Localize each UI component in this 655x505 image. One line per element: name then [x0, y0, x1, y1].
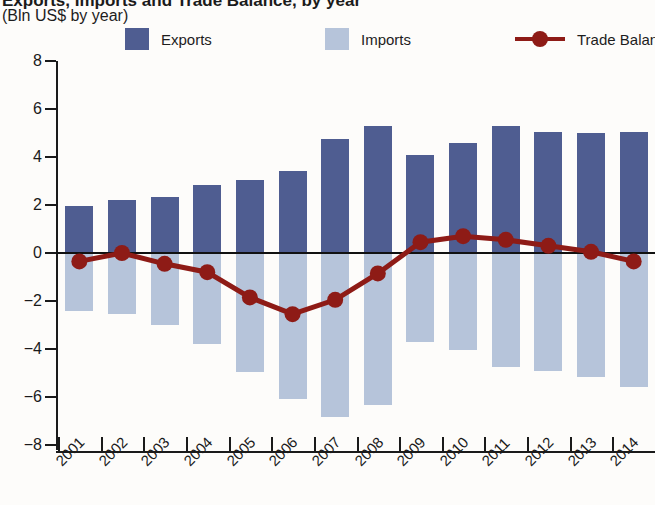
trade-balance-point [157, 256, 173, 272]
legend-label-trade-balance: Trade Balance [577, 31, 655, 48]
trade-balance-point [540, 238, 556, 254]
trade-balance-point [71, 253, 87, 269]
trade-balance-point [327, 292, 343, 308]
legend-label-imports: Imports [361, 31, 411, 48]
trade-balance-point [199, 264, 215, 280]
imports-color-swatch [325, 28, 349, 50]
legend-item-exports: Exports [125, 26, 212, 52]
trade-balance-point [242, 289, 258, 305]
trade-balance-point [583, 244, 599, 260]
trade-balance-point [114, 245, 130, 261]
trade-balance-point [498, 232, 514, 248]
trade-balance-point [412, 234, 428, 250]
trade-balance-point [455, 228, 471, 244]
trade-balance-line-marker [515, 28, 565, 50]
plot-area: 86420−2−4−6−8 20012002200320042005200620… [0, 55, 655, 505]
trade-balance-point [285, 306, 301, 322]
exports-color-swatch [125, 28, 149, 50]
chart-legend: Exports Imports Trade Balance [125, 26, 645, 52]
legend-label-exports: Exports [161, 31, 212, 48]
chart-page: Exports, Imports and Trade Balance, by y… [0, 0, 655, 505]
legend-item-trade-balance: Trade Balance [515, 26, 655, 52]
trade-balance-point [370, 265, 386, 281]
chart-subtitle: (Bln US$ by year) [2, 7, 128, 25]
legend-item-imports: Imports [325, 26, 411, 52]
trade-balance-point [626, 253, 642, 269]
